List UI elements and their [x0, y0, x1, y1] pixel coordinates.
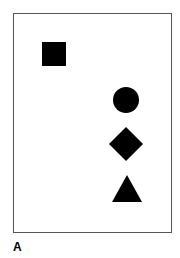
figure-frame — [13, 13, 172, 233]
diamond-shape — [109, 127, 143, 161]
triangle-icon — [112, 175, 142, 202]
diamond-icon — [109, 127, 143, 161]
circle-shape — [113, 87, 139, 113]
square-shape — [42, 42, 66, 66]
triangle-shape — [112, 175, 142, 202]
panel-label: A — [13, 241, 22, 254]
